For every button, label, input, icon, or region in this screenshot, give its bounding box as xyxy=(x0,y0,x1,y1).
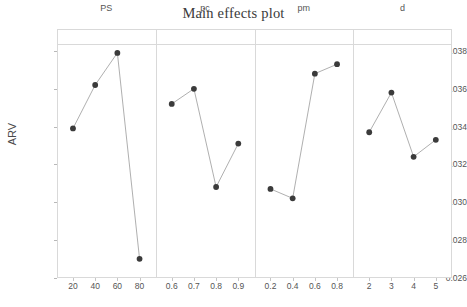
x-tick-label: 5 xyxy=(423,281,449,291)
y-axis-title: ARV xyxy=(6,104,18,164)
x-tick-label: 0.9 xyxy=(225,281,251,291)
chart-root: Main effects plot ARV 0.0260.0280.0300.0… xyxy=(0,0,467,307)
panel-header-PS: PS xyxy=(57,0,156,16)
x-tick-label: 0.8 xyxy=(324,281,350,291)
panel-header-d: d xyxy=(353,0,452,16)
panel-header-pm: pm xyxy=(255,0,354,16)
panel-header-pc: pc xyxy=(156,0,255,16)
panel-divider xyxy=(353,29,354,278)
x-tick-label: 80 xyxy=(127,281,153,291)
panel-divider xyxy=(255,29,256,278)
panel-divider xyxy=(156,29,157,278)
